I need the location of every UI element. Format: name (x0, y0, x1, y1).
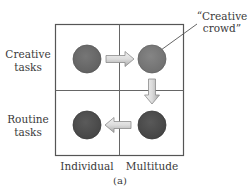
node-creative-individual (73, 45, 101, 73)
row-label-line: Routine (2, 113, 54, 126)
row-label-line: Creative (2, 48, 54, 61)
node-creative-crowd (138, 45, 166, 73)
callout-leader-line (161, 24, 197, 50)
row-label-line: tasks (2, 61, 54, 74)
row-label-routine-tasks: Routine tasks (2, 113, 54, 139)
node-routine-individual (73, 111, 101, 139)
quadrant-grid (56, 25, 184, 156)
column-label-multitude: Multitude (120, 160, 184, 173)
row-label-line: tasks (2, 126, 54, 139)
column-label-individual: Individual (55, 160, 119, 173)
callout-line: “Creative (196, 10, 248, 22)
callout-creative-crowd: “Creative crowd” (196, 10, 248, 34)
callout-line: crowd” (196, 22, 248, 34)
arrow-left-icon (105, 118, 131, 133)
row-label-creative-tasks: Creative tasks (2, 48, 54, 74)
node-routine-multitude (138, 111, 166, 139)
arrow-down-icon (145, 79, 160, 104)
figure-caption: (a) (108, 174, 132, 187)
